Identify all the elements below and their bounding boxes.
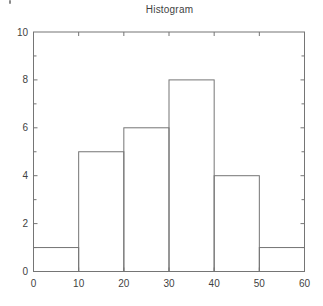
histogram-bar bbox=[214, 176, 259, 272]
y-tick-label: 6 bbox=[22, 122, 28, 133]
histogram-figure: Histogram 01020304050600246810 bbox=[0, 0, 323, 306]
y-tick-label: 8 bbox=[22, 74, 28, 85]
histogram-plot: 01020304050600246810 bbox=[0, 0, 323, 306]
histogram-bar bbox=[34, 248, 79, 272]
histogram-bar bbox=[169, 80, 214, 272]
y-tick-label: 10 bbox=[17, 27, 29, 38]
histogram-bar bbox=[259, 248, 304, 272]
x-tick-label: 60 bbox=[299, 278, 311, 289]
x-tick-label: 0 bbox=[31, 278, 37, 289]
x-tick-label: 30 bbox=[163, 278, 175, 289]
histogram-bar bbox=[124, 128, 169, 272]
y-tick-label: 2 bbox=[22, 218, 28, 229]
x-tick-label: 10 bbox=[73, 278, 85, 289]
histogram-bar bbox=[79, 152, 124, 272]
x-tick-label: 20 bbox=[118, 278, 130, 289]
x-tick-label: 50 bbox=[254, 278, 266, 289]
y-tick-label: 0 bbox=[22, 266, 28, 277]
x-tick-label: 40 bbox=[209, 278, 221, 289]
y-tick-label: 4 bbox=[22, 170, 28, 181]
